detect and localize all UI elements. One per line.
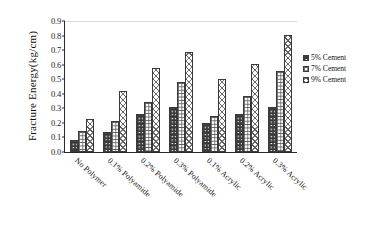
bar-group xyxy=(231,21,264,152)
bar xyxy=(284,35,292,152)
bar-group xyxy=(65,21,98,152)
bar xyxy=(169,107,177,152)
bar xyxy=(276,71,284,152)
bar xyxy=(86,119,94,152)
x-label-cell: 0.1% Polyamide xyxy=(97,154,130,238)
legend-swatch xyxy=(303,77,309,83)
bar xyxy=(177,82,185,152)
bar xyxy=(251,64,259,152)
x-label-cell: 0.2% Acrylic xyxy=(230,154,263,238)
bar xyxy=(202,123,210,152)
y-axis-title: Fracture Energy(kg/cm) xyxy=(26,6,38,166)
bar xyxy=(144,102,152,152)
legend-item[interactable]: 7% Cement xyxy=(303,63,371,74)
bar xyxy=(78,131,86,152)
legend-item[interactable]: 9% Cement xyxy=(303,74,371,85)
plot-area: 0.90.80.70.60.50.40.30.20.10.0 xyxy=(64,21,297,153)
bar xyxy=(111,121,119,152)
bar-group xyxy=(98,21,131,152)
bar-group xyxy=(264,21,297,152)
bar xyxy=(119,91,127,152)
legend-swatch xyxy=(303,55,309,61)
x-axis-labels: No Polymer0.1% Polyamide0.2% Polyamide0.… xyxy=(64,154,296,238)
bar-group xyxy=(164,21,197,152)
legend-item[interactable]: 5% Cement xyxy=(303,52,371,63)
chart-legend: 5% Cement7% Cement9% Cement xyxy=(303,52,371,85)
bar xyxy=(152,68,160,152)
legend-label: 9% Cement xyxy=(311,76,346,84)
x-label-cell: No Polymer xyxy=(64,154,97,238)
x-label-cell: 0.2% Polyamide xyxy=(130,154,163,238)
x-tick-label: 0.3% Acrylic xyxy=(271,156,309,192)
bar-group xyxy=(198,21,231,152)
legend-label: 5% Cement xyxy=(311,54,346,62)
bar xyxy=(103,132,111,152)
x-label-cell: 0.3% Acrylic xyxy=(263,154,296,238)
x-label-cell: 0.3% Polyamide xyxy=(163,154,196,238)
bar xyxy=(218,79,226,152)
x-label-cell: 0.1% Acrylic xyxy=(197,154,230,238)
bar xyxy=(268,107,276,152)
bar-group xyxy=(131,21,164,152)
bar xyxy=(70,140,78,152)
bar xyxy=(185,52,193,152)
bar xyxy=(235,114,243,152)
legend-label: 7% Cement xyxy=(311,65,346,73)
legend-swatch xyxy=(303,66,309,72)
bar xyxy=(243,96,251,152)
chart-figure: Fracture Energy(kg/cm) 0.90.80.70.60.50.… xyxy=(0,0,374,240)
bar xyxy=(136,114,144,152)
bar-groups xyxy=(65,21,297,152)
bar xyxy=(210,116,218,152)
